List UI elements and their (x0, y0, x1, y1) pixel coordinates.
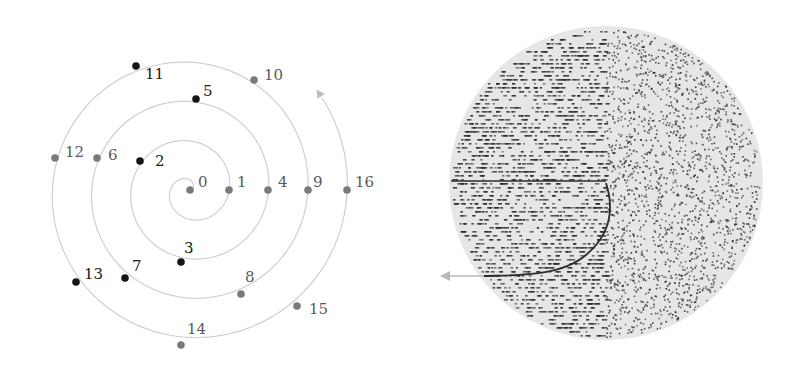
point-label-4: 4 (278, 173, 288, 191)
point-dot-9 (304, 186, 312, 194)
point-dot-6 (93, 154, 101, 162)
point-dot-10 (250, 76, 258, 84)
archimedean-spiral-curve (52, 62, 347, 337)
point-dot-16 (343, 186, 351, 194)
point-label-11: 11 (145, 65, 164, 83)
dot-disc-panel (440, 26, 763, 340)
point-label-13: 13 (84, 265, 103, 283)
point-dot-14 (177, 341, 185, 349)
point-dot-5 (192, 95, 200, 103)
point-dot-12 (51, 154, 59, 162)
point-label-15: 15 (309, 300, 328, 318)
spiral-diagram-canvas: 012345678910111213141516 (0, 0, 789, 378)
disc-left-arrow-icon (440, 271, 450, 281)
point-label-3: 3 (184, 239, 194, 257)
point-dot-3 (177, 258, 185, 266)
point-label-12: 12 (65, 143, 84, 161)
point-dot-1 (225, 186, 233, 194)
numbered-points: 012345678910111213141516 (51, 62, 374, 349)
point-dot-15 (293, 302, 301, 310)
spiral-panel: 012345678910111213141516 (51, 62, 374, 349)
point-label-6: 6 (108, 146, 118, 164)
point-label-0: 0 (198, 173, 208, 191)
point-dot-0 (186, 186, 194, 194)
point-dot-4 (264, 186, 272, 194)
point-label-5: 5 (203, 82, 213, 100)
spiral-direction-arrow-icon (317, 90, 325, 99)
point-label-7: 7 (132, 257, 142, 275)
point-label-1: 1 (237, 173, 247, 191)
point-label-8: 8 (245, 268, 255, 286)
point-dot-8 (237, 290, 245, 298)
point-dot-13 (72, 278, 80, 286)
point-label-9: 9 (313, 173, 323, 191)
point-dot-7 (121, 274, 129, 282)
point-dot-2 (136, 157, 144, 165)
point-label-2: 2 (155, 152, 165, 170)
point-label-14: 14 (187, 320, 206, 338)
point-label-16: 16 (355, 173, 374, 191)
point-dot-11 (132, 62, 140, 70)
point-label-10: 10 (264, 66, 283, 84)
